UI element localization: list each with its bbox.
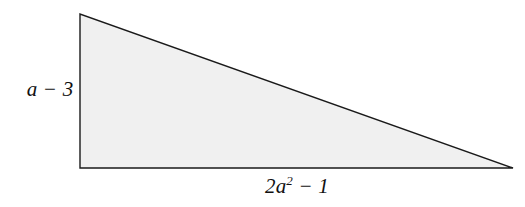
base-label: 2a2 − 1 — [247, 176, 347, 197]
triangle-polygon — [80, 14, 513, 168]
triangle-figure: a − 3 2a2 − 1 — [0, 0, 525, 207]
base-label-suffix: − 1 — [293, 174, 329, 198]
base-label-prefix: 2a — [265, 174, 286, 198]
height-label: a − 3 — [26, 79, 74, 100]
height-label-text: a − 3 — [27, 77, 74, 101]
